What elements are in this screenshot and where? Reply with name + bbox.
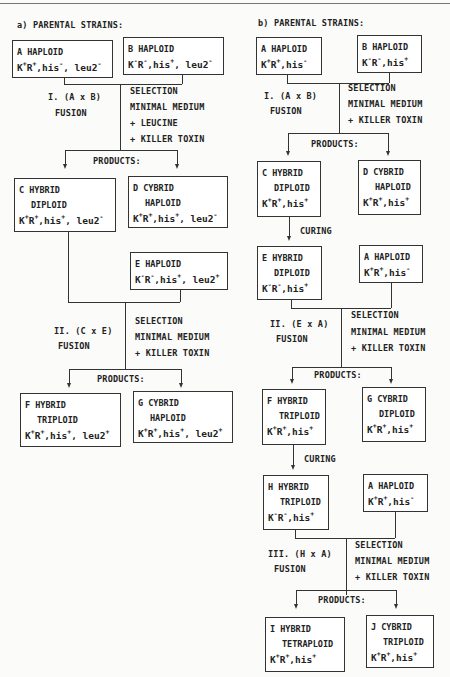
genotype: K+R+,his+ [367, 422, 421, 437]
arrow-down-icon [67, 383, 71, 388]
connector [341, 308, 342, 367]
strain-name: A HAPLOID [261, 42, 317, 57]
ploidy-label: TRIPLOID [268, 495, 324, 510]
connector [296, 590, 297, 604]
arrow-down-icon [389, 379, 393, 384]
strain-name: B HAPLOID [362, 40, 417, 55]
genotype: K+R+,his- [261, 57, 317, 72]
strain-name: F HYBRID [267, 394, 321, 409]
strain-box: A HAPLOIDK+R+,his- [359, 245, 423, 283]
allele-sign: + [218, 426, 222, 434]
genotype-locus: ,his [383, 267, 406, 278]
connector [64, 84, 182, 85]
strain-name: D CYBRID [363, 165, 416, 180]
strain-name: A HAPLOID [368, 479, 423, 494]
arrow-down-icon [63, 164, 67, 169]
cross-label: I. (A x B) [264, 91, 317, 102]
strain-box: B HAPLOIDK-R-,his+ [357, 35, 422, 73]
supplement-label: + LEUCINE [130, 118, 178, 129]
allele-sign: + [413, 650, 417, 658]
genotype: K-R-,his+, leu2- [128, 57, 219, 72]
supplement-label: + KILLER TOXIN [130, 134, 204, 145]
genotype-locus: ,his [381, 57, 404, 68]
genotype-locus: ,his [36, 62, 59, 73]
genotype-locus: ,his [44, 430, 67, 441]
strain-box: C HYBRIDDIPLOIDK+R+,his+, leu2- [14, 178, 116, 232]
allele-sign: - [99, 213, 103, 221]
panel-b-title: b) PARENTAL STRAINS: [258, 18, 364, 29]
page-top-rule [0, 0, 450, 4]
connector [182, 75, 183, 84]
allele-sign: + [404, 55, 408, 63]
connector [295, 538, 395, 539]
strain-name: E HYBRID [262, 251, 317, 266]
ploidy-label: TETRAPLOID [270, 637, 340, 652]
genotype-locus: , leu2 [65, 215, 99, 226]
strain-box: I HYBRIDTETRAPLOIDK+R+,his+ [265, 617, 345, 672]
connector [181, 369, 182, 383]
strain-name: G CYBRID [367, 392, 421, 407]
genotype: K+R+,his+ [262, 196, 316, 211]
strain-name: J CYBRID [371, 620, 429, 635]
supplement-label: + KILLER TOXIN [351, 343, 425, 354]
connector [293, 445, 294, 465]
supplement-label: + KILLER TOXIN [348, 115, 422, 126]
ploidy-label: TRIPLOID [371, 635, 429, 650]
connector [288, 133, 388, 134]
allele-sign: - [208, 57, 212, 65]
allele-sign: + [312, 652, 316, 660]
allele-sign: + [310, 510, 314, 518]
connector [68, 232, 69, 302]
connector [65, 150, 177, 151]
genotype: K+R+,his+ [371, 650, 429, 665]
connector [69, 369, 181, 370]
strain-name: E HAPLOID [135, 257, 223, 272]
connector [389, 73, 390, 83]
allele-sign: - [213, 211, 217, 219]
genotype-locus: ,his [390, 652, 413, 663]
genotype: K+R+,his+ [267, 424, 321, 439]
allele-sign: + [215, 272, 219, 280]
strain-box: G CYBRIDHAPLOIDK+R+,his+, leu2+ [133, 391, 233, 443]
allele-sign: + [304, 196, 308, 204]
strain-box: A HAPLOIDK+R+,his-, leu2- [12, 40, 113, 78]
arrow-down-icon [179, 383, 183, 388]
selection-label: SELECTION [355, 540, 403, 551]
strain-name: B HAPLOID [128, 42, 219, 57]
genotype-locus: ,his [382, 197, 405, 208]
arrow-down-icon [394, 604, 398, 609]
genotype-locus: ,his [147, 59, 170, 70]
strain-box: A HAPLOIDK+R+,his- [363, 474, 428, 512]
allele-sign: + [409, 422, 413, 430]
genotype-locus: ,his [386, 424, 409, 435]
strain-box: D CYBRIDHAPLOIDK+R+,his+ [358, 160, 421, 215]
allele-sign: - [410, 494, 414, 502]
panel-a-title: a) PARENTAL STRAINS: [17, 20, 123, 31]
strain-box: E HYBRIDDIPLOIDK-R-,his+ [257, 246, 322, 300]
curing-label: CURING [300, 226, 332, 237]
strain-name: C HYBRID [262, 166, 316, 181]
connector [292, 367, 391, 368]
strain-name: A HAPLOID [364, 250, 418, 265]
fusion-label: FUSION [55, 108, 87, 119]
arrow-down-icon [286, 151, 290, 156]
medium-label: MINIMAL MEDIUM [351, 327, 425, 338]
genotype-locus: ,his [281, 283, 304, 294]
genotype-locus: , leu2 [181, 274, 215, 285]
connector [391, 367, 392, 379]
connector [291, 300, 292, 308]
ploidy-label: HAPLOID [138, 411, 228, 426]
genotype: K+R+,his- [364, 265, 418, 280]
medium-label: MINIMAL MEDIUM [130, 102, 204, 113]
genotype-locus: ,his [157, 428, 180, 439]
strain-name: D CYBRID [133, 181, 223, 196]
connector [289, 217, 290, 236]
genotype-locus: , leu2 [71, 430, 105, 441]
strain-box: G CYBRIDDIPLOIDK+R+,his+ [362, 387, 426, 442]
genotype: K+R+,his+, leu2- [133, 211, 223, 226]
connector [388, 133, 389, 151]
strain-box: F HYBRIDTRIPLOIDK+R+,his+, leu2+ [20, 393, 121, 447]
supplement-label: + KILLER TOXIN [135, 348, 209, 359]
strain-box: F HYBRIDTRIPLOIDK+R+,his+ [262, 389, 326, 445]
curing-label: CURING [304, 454, 336, 465]
